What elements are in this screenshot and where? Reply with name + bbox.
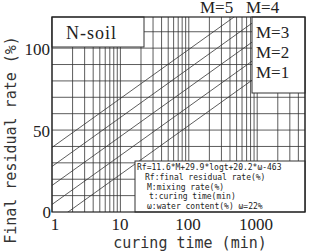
- x-tick-label-1000: 1000: [239, 215, 273, 234]
- formula-line-1: Rf=11.6*M+29.9*logt+20.2*ω-463: [137, 163, 282, 172]
- x-tick-label-1: 1: [51, 215, 60, 234]
- legend-label-m1: M=1: [256, 63, 289, 82]
- chart-title: N-soil: [66, 23, 117, 43]
- legend-label-m3: M=3: [256, 23, 289, 42]
- formula-line-5: ω:water content(%) ω=22%: [147, 202, 263, 211]
- x-tick-label-10: 10: [112, 215, 129, 234]
- formula-line-2: Rf:final residual rate(%): [145, 173, 265, 182]
- y-tick-label-100: 100: [25, 40, 51, 59]
- series-label-m5: M=5: [200, 0, 233, 17]
- y-tick-label-50: 50: [33, 122, 50, 141]
- formula-line-3: M:mixing rate(%): [147, 183, 224, 192]
- y-axis-label: Final residual rate (%): [2, 36, 20, 244]
- x-tick-label-100: 100: [175, 215, 201, 234]
- series-label-m4: M=4: [246, 0, 280, 17]
- formula-line-4: t:curing time(min): [149, 192, 236, 201]
- chart: N-soil M=3 M=2 M=1 M=5 M=4 Rf=11.6*M+29.…: [0, 0, 310, 252]
- y-tick-label-0: 0: [43, 203, 52, 222]
- x-axis-label: curing time (min): [113, 234, 267, 252]
- legend-label-m2: M=2: [256, 43, 289, 62]
